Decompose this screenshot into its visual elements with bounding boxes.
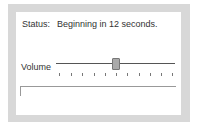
volume-slider-thumb[interactable] bbox=[112, 58, 120, 70]
tick bbox=[105, 73, 106, 76]
tick bbox=[139, 73, 140, 76]
tick bbox=[172, 73, 173, 76]
text-field-left-border bbox=[20, 86, 21, 96]
tick bbox=[59, 73, 60, 76]
tick bbox=[116, 73, 117, 76]
tick bbox=[71, 73, 72, 76]
tick bbox=[161, 73, 162, 76]
tick bbox=[150, 73, 151, 76]
tick bbox=[82, 73, 83, 76]
tick bbox=[94, 73, 95, 76]
status-label: Status: bbox=[22, 19, 50, 29]
volume-label: Volume bbox=[21, 62, 51, 72]
text-field-top-border bbox=[20, 86, 176, 87]
tick bbox=[127, 73, 128, 76]
status-value: Beginning in 12 seconds. bbox=[57, 19, 158, 29]
